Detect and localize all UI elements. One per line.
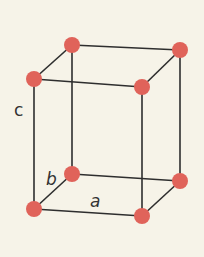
- atom-bottom-back-right: [172, 173, 188, 189]
- edge-top-back: [72, 45, 180, 50]
- atom-top-back-left: [64, 37, 80, 53]
- atom-top-front-left: [26, 71, 42, 87]
- atom-bottom-front-left: [26, 201, 42, 217]
- label-b: b: [46, 169, 57, 189]
- unit-cell-diagram: c b a: [0, 0, 204, 257]
- atom-bottom-front-right: [134, 208, 150, 224]
- atom-top-front-right: [134, 79, 150, 95]
- atom-top-back-right: [172, 42, 188, 58]
- label-c: c: [14, 100, 23, 120]
- edge-bottom-front: [34, 209, 142, 216]
- cell-edges: [34, 45, 180, 216]
- edge-labels: c b a: [14, 100, 100, 211]
- edge-top-front: [34, 79, 142, 87]
- atom-bottom-back-left: [64, 166, 80, 182]
- edge-bottom-back: [72, 174, 180, 181]
- label-a: a: [90, 191, 100, 211]
